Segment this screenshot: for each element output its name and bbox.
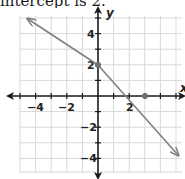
y-tick-label: −4 [80,152,97,165]
x-axis [8,93,184,99]
y-intercept-point [95,62,101,68]
x-intercept-point [142,93,148,99]
x-tick-label: −4 [27,101,44,114]
plotted-line [28,19,178,155]
x-axis-label: x [179,81,185,95]
y-tick-label: −2 [80,121,97,134]
y-tick-label: 4 [87,28,95,41]
grid-lines [20,16,182,173]
coordinate-plane: y x −4 −2 2 4 2 −2 −4 [0,0,185,179]
y-axis-label: y [106,6,115,20]
x-tick-label: −2 [58,101,75,114]
